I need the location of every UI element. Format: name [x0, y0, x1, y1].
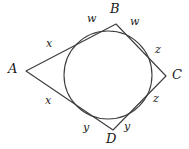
segment-label-x-upper: x	[46, 38, 52, 49]
segment-label-y-left: y	[83, 122, 89, 133]
vertex-label-c: C	[172, 68, 182, 81]
segment-label-x-lower: x	[45, 95, 51, 106]
segment-label-z-lower: z	[153, 93, 159, 104]
geometry-figure: A B C D w w x x z z y y	[0, 0, 189, 149]
segment-label-y-right: y	[124, 121, 130, 132]
vertex-label-b: B	[110, 2, 120, 15]
vertex-label-d: D	[106, 132, 116, 145]
inscribed-circle	[64, 31, 152, 119]
vertex-label-a: A	[8, 62, 17, 75]
segment-label-w-right: w	[130, 16, 139, 27]
segment-label-w-left: w	[87, 13, 96, 24]
segment-label-z-upper: z	[155, 44, 161, 55]
